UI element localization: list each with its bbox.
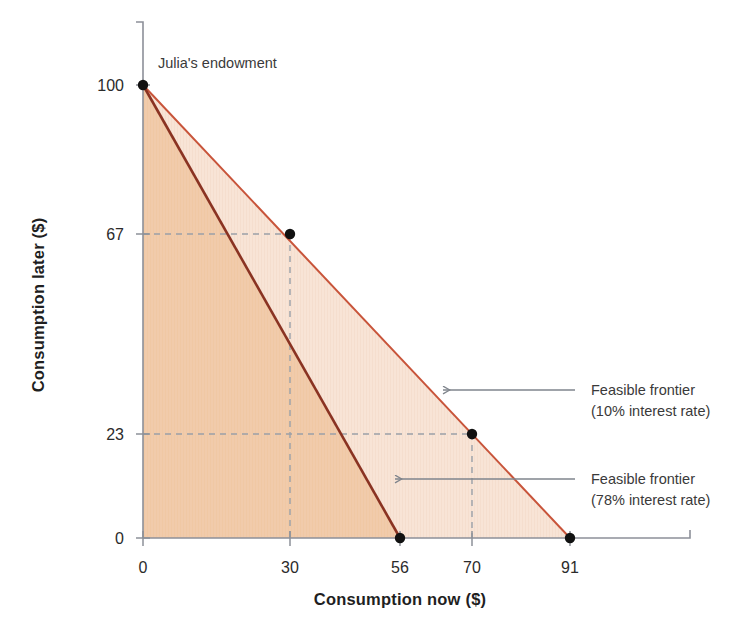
point-endowment [138, 80, 148, 90]
frontier-10-label-line2: (10% interest rate) [591, 403, 710, 419]
x-tick-label-30: 30 [281, 559, 299, 576]
point-70-23 [467, 429, 477, 439]
y-tick-labels: 100 67 23 0 [97, 77, 124, 547]
feasible-frontier-chart: 100 67 23 0 0 30 56 70 91 Consumption no… [0, 0, 743, 636]
chart-figure: 100 67 23 0 0 30 56 70 91 Consumption no… [0, 0, 743, 636]
point-30-67 [285, 229, 295, 239]
x-tick-label-56: 56 [391, 559, 409, 576]
frontier-78-annotation: Feasible frontier (78% interest rate) [591, 471, 710, 508]
frontier-10-label-line1: Feasible frontier [591, 382, 695, 398]
y-tick-label-0: 0 [115, 530, 124, 547]
point-91-0 [565, 533, 575, 543]
frontier-78-label-line1: Feasible frontier [591, 471, 695, 487]
y-tick-label-100: 100 [97, 77, 124, 94]
endowment-label: Julia's endowment [158, 55, 277, 71]
x-tick-labels: 0 30 56 70 91 [139, 559, 579, 576]
x-tick-label-70: 70 [463, 559, 481, 576]
frontier-10-annotation: Feasible frontier (10% interest rate) [591, 382, 710, 419]
y-axis-title: Consumption later ($) [29, 218, 47, 393]
y-tick-label-67: 67 [106, 226, 124, 243]
y-tick-label-23: 23 [106, 426, 124, 443]
y-axis-line [136, 22, 143, 538]
x-axis-title: Consumption now ($) [314, 590, 486, 608]
x-tick-label-0: 0 [139, 559, 148, 576]
point-56-0 [395, 533, 405, 543]
x-tick-label-91: 91 [561, 559, 579, 576]
frontier-78-label-line2: (78% interest rate) [591, 492, 710, 508]
